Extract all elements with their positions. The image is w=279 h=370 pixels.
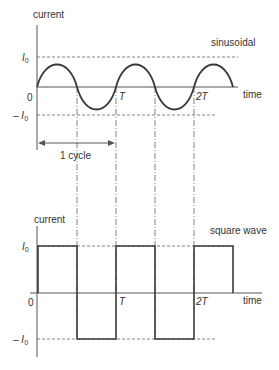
- bottom-tick-2T: 2T: [195, 296, 209, 307]
- bottom-x-axis-label: time: [243, 295, 262, 306]
- bottom-wave-label: square wave: [210, 225, 267, 236]
- one-cycle-indicator: 1 cycle: [37, 130, 115, 161]
- bottom-origin-label: 0: [28, 297, 34, 308]
- top-x-axis-label: time: [243, 89, 262, 100]
- bottom-tick-T: T: [119, 296, 126, 307]
- top-origin-label: 0: [27, 92, 33, 103]
- arrow-left-icon: [38, 140, 45, 146]
- arrow-right-icon: [108, 140, 115, 146]
- waveform-diagram: current sinusoidal time 0 T 2T I0 – I0 1…: [0, 0, 279, 370]
- top-negI0-label: – I0: [12, 110, 28, 122]
- top-tick-T: T: [119, 91, 126, 102]
- bottom-y-axis-label: current: [34, 214, 65, 225]
- top-tick-2T: 2T: [195, 91, 209, 102]
- square-wave-plot: current square wave time 0 T 2T I0 – I0: [12, 214, 267, 357]
- bottom-I0-label: I0: [22, 241, 29, 253]
- top-wave-label: sinusoidal: [211, 37, 255, 48]
- top-y-axis-label: current: [33, 9, 64, 20]
- cycle-label: 1 cycle: [60, 150, 92, 161]
- sinusoidal-plot: current sinusoidal time 0 T 2T I0 – I0 1…: [12, 9, 262, 339]
- bottom-negI0-label: – I0: [12, 334, 28, 346]
- top-I0-label: I0: [22, 52, 29, 64]
